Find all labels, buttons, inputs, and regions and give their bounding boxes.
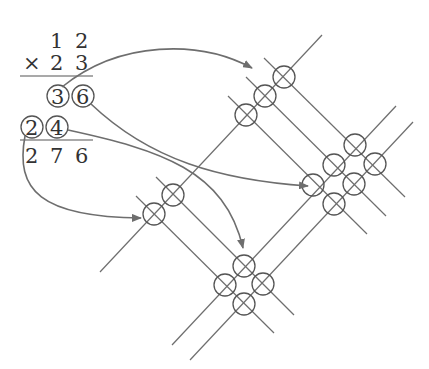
written-calculation: 1 2 × 2 3 3 6 2 4 2 7 6: [20, 29, 94, 168]
partial-row2-digit-1: 2: [25, 116, 38, 140]
line-multiplication-diagram: 1 2 × 2 3 3 6 2 4 2 7 6: [0, 0, 429, 369]
arrow-3-to-top-group: [62, 49, 252, 87]
line-multiplicand-2a: [172, 106, 396, 345]
lines-up-right: [100, 35, 413, 360]
multiply-operator: ×: [23, 51, 41, 75]
partial-row1-digit-1: 3: [51, 85, 64, 109]
line-multiplicand-1: [100, 35, 322, 272]
result-digit-3: 6: [75, 144, 88, 168]
multiplier-digit-2: 3: [75, 51, 88, 75]
intersection-circle-right: [323, 193, 345, 215]
intersection-circle-right: [364, 153, 386, 175]
result-digit-1: 2: [25, 144, 38, 168]
partial-row2-digit-2: 4: [50, 116, 63, 140]
partial-row1-digit-2: 6: [76, 85, 89, 109]
intersection-circle-top: [235, 104, 257, 126]
arrow-6-to-right-group: [91, 104, 308, 186]
multiplicand-digit-2: 2: [75, 29, 88, 53]
multiplicand-digit-1: 1: [50, 29, 63, 53]
result-digit-2: 7: [50, 144, 63, 168]
intersection-circle-right: [302, 174, 324, 196]
arrows: [23, 49, 308, 248]
line-multiplier-2a: [228, 96, 367, 234]
line-multiplicand-2b: [190, 122, 413, 360]
line-multiplier-1a: [136, 196, 274, 333]
multiplier-digit-1: 2: [50, 51, 63, 75]
intersection-circle-left: [162, 184, 184, 206]
line-multiplier-1b: [156, 177, 294, 315]
intersection-circle-right: [344, 134, 366, 156]
intersection-circle-bottom: [233, 255, 255, 277]
